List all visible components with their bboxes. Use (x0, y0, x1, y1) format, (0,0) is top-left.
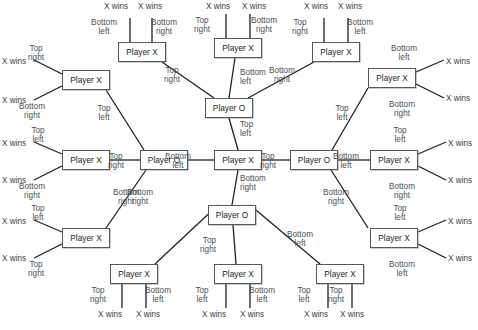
node-x_r3[interactable]: Player X (370, 228, 418, 248)
leaf-edge-x_r3-23 (418, 244, 446, 258)
leaf-move-label: Top left (372, 204, 428, 223)
node-label: Player O (213, 104, 245, 112)
leaf-move-label: Bottom right (374, 182, 430, 201)
x-wins-label: X wins (104, 2, 128, 11)
x-wins-label: X wins (340, 310, 364, 319)
tree-edge-o_n-to-x_t2 (229, 58, 235, 98)
leaf-move-label: Top right (70, 286, 126, 305)
node-x_r1[interactable]: Player X (368, 68, 416, 88)
x-wins-label: X wins (202, 310, 226, 319)
edge-move-label: Top left (240, 120, 253, 139)
edge-move-label: Top right (160, 236, 216, 255)
leaf-move-label: Top right (308, 286, 364, 305)
x-wins-label: X wins (206, 2, 230, 11)
node-label: Player X (324, 270, 355, 278)
node-label: Player X (70, 234, 101, 242)
node-label: Player X (378, 156, 409, 164)
x-wins-label: X wins (2, 57, 26, 66)
x-wins-label: X wins (446, 94, 470, 103)
x-wins-label: X wins (448, 254, 472, 263)
node-o_n[interactable]: Player O (205, 98, 253, 118)
leaf-edge-x_r2-21 (418, 166, 446, 180)
node-x_t2[interactable]: Player X (214, 38, 262, 58)
node-label: Player X (70, 76, 101, 84)
node-label: Player X (378, 234, 409, 242)
leaf-move-label: Bottom left (376, 44, 432, 63)
node-label: Player X (222, 44, 253, 52)
leaf-move-label: Top right (174, 16, 230, 35)
x-wins-label: X wins (304, 310, 328, 319)
edge-move-label: Bottom right (308, 188, 364, 207)
edge-move-label: Top right (240, 152, 296, 171)
edge-move-label: Top right (144, 66, 200, 85)
x-wins-label: X wins (2, 96, 26, 105)
leaf-edge-x_l2-15 (34, 166, 62, 180)
leaf-move-label: Top right (272, 18, 328, 37)
x-wins-label: X wins (136, 310, 160, 319)
node-x_b1[interactable]: Player X (110, 264, 158, 284)
edge-move-label: Top right (88, 152, 144, 171)
edge-move-label: Top left (76, 104, 132, 123)
leaf-move-label: Bottom left (332, 18, 388, 37)
leaf-move-label: Top left (174, 286, 230, 305)
x-wins-label: X wins (448, 217, 472, 226)
leaf-move-label: Bottom left (374, 260, 430, 279)
x-wins-label: X wins (2, 176, 26, 185)
leaf-move-label: Bottom right (374, 100, 430, 119)
edge-move-label: Bottom left (272, 230, 328, 249)
edge-move-label: Bottom right (254, 66, 310, 85)
x-wins-label: X wins (446, 57, 470, 66)
x-wins-label: X wins (98, 310, 122, 319)
node-x_t1[interactable]: Player X (118, 42, 166, 62)
x-wins-label: X wins (448, 139, 472, 148)
x-wins-label: X wins (240, 310, 264, 319)
node-x_b3[interactable]: Player X (316, 264, 364, 284)
leaf-move-label: Top left (372, 126, 428, 145)
node-x_r2[interactable]: Player X (370, 150, 418, 170)
x-wins-label: X wins (338, 2, 362, 11)
node-x_l3[interactable]: Player X (62, 228, 110, 248)
x-wins-label: X wins (448, 176, 472, 185)
node-x_b2[interactable]: Player X (214, 264, 262, 284)
edge-move-label: Bottom left (150, 152, 206, 171)
leaf-edge-x_l1-13 (34, 86, 62, 100)
tree-edge-o_s-to-x_b2 (233, 225, 236, 264)
edge-move-label: Top left (314, 104, 370, 123)
edge-move-label: Bottom left (318, 152, 374, 171)
node-x_l1[interactable]: Player X (62, 70, 110, 90)
node-label: Player X (118, 270, 149, 278)
leaf-edge-x_l3-17 (34, 244, 62, 258)
node-label: Player X (222, 270, 253, 278)
node-label: Player O (216, 211, 248, 219)
x-wins-label: X wins (138, 2, 162, 11)
node-x_t3[interactable]: Player X (312, 42, 360, 62)
x-wins-label: X wins (2, 254, 26, 263)
node-label: Player X (320, 48, 351, 56)
leaf-move-label: Bottom left (76, 18, 132, 37)
x-wins-label: X wins (242, 2, 266, 11)
x-wins-label: X wins (2, 217, 26, 226)
node-label: Player X (126, 48, 157, 56)
edge-move-label: Bottom right (240, 174, 266, 193)
x-wins-label: X wins (2, 139, 26, 148)
tree-edge-root-to-o_s (232, 170, 238, 205)
leaf-edge-x_r1-19 (416, 84, 444, 98)
tree-edge-root-to-o_n (229, 118, 238, 150)
edge-move-label: Bottom right (98, 188, 154, 207)
node-o_s[interactable]: Player O (208, 205, 256, 225)
game-tree-diagram: Player XPlayer OPlayer OPlayer OPlayer O… (0, 0, 478, 330)
node-label: Player X (376, 74, 407, 82)
x-wins-label: X wins (304, 2, 328, 11)
